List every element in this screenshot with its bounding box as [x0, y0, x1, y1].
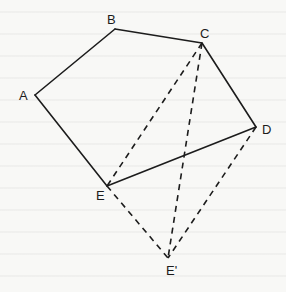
vertex-label-a: A — [19, 88, 28, 103]
geometry-figure: A B C D E E' — [0, 0, 286, 292]
vertex-label-e-prime: E' — [166, 263, 177, 278]
edge-b-c — [115, 29, 202, 43]
vertex-label-c: C — [200, 26, 209, 41]
dashed-edge-e-e-prime — [107, 186, 168, 258]
edge-c-d — [202, 43, 256, 127]
dashed-edge-d-e-prime — [168, 127, 256, 258]
pentagon-diagram: A B C D E E' — [0, 0, 286, 292]
edge-a-b — [35, 29, 115, 95]
dashed-edge-c-e — [107, 43, 202, 186]
vertex-label-d: D — [262, 122, 271, 137]
vertex-label-e: E — [96, 188, 105, 203]
vertex-label-b: B — [107, 12, 116, 27]
edge-e-a — [35, 95, 107, 186]
